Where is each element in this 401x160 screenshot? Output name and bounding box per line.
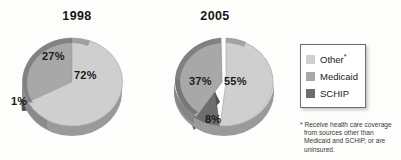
legend-label-schip: SCHIP — [320, 89, 349, 99]
pie-1998-label-medicaid: 27% — [42, 50, 65, 62]
pie-2005-label-medicaid: 37% — [189, 75, 212, 87]
pie-chart-1998 — [16, 26, 128, 138]
legend-label-other-text: Other — [320, 54, 344, 65]
pie-2005-label-other: 55% — [224, 75, 247, 87]
pie-1998-svg — [16, 26, 128, 138]
pie-2005-label-schip: 8% — [205, 113, 221, 125]
footnote-text: Receive health care coverage from source… — [304, 121, 392, 153]
legend-swatch-schip-icon — [306, 89, 315, 98]
pie-1998-label-schip: 1% — [11, 95, 27, 107]
footnote: * Receive health care coverage from sour… — [300, 121, 400, 154]
legend-label-medicaid: Medicaid — [320, 72, 358, 82]
chart-title-1998: 1998 — [42, 9, 112, 23]
figure-canvas: 1998 — [0, 0, 401, 160]
legend-item-schip: SCHIP — [306, 85, 365, 102]
legend: Other* Medicaid SCHIP — [300, 44, 366, 108]
legend-label-other-superscript: * — [344, 53, 347, 60]
legend-swatch-other-icon — [306, 55, 315, 64]
chart-title-2005: 2005 — [180, 9, 250, 23]
pie-1998-label-other: 72% — [74, 69, 97, 81]
legend-item-medicaid: Medicaid — [306, 68, 365, 85]
legend-label-other: Other* — [320, 55, 347, 65]
footnote-marker: * — [300, 121, 303, 128]
legend-item-other: Other* — [306, 51, 365, 68]
legend-swatch-medicaid-icon — [306, 72, 315, 81]
